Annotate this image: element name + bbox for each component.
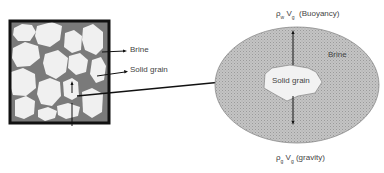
label-brine-right: Brine: [328, 50, 347, 59]
grains: [10, 22, 106, 121]
label-solid-grain-right: Solid grain: [272, 76, 310, 85]
diagram-canvas: [0, 0, 384, 173]
porous-medium-box: [10, 21, 109, 126]
brine-ellipse: [215, 27, 379, 143]
label-gravity: ρg Vg (gravity): [276, 153, 325, 164]
label-solid-grain-left: Solid grain: [130, 65, 168, 74]
label-brine-left: Brine: [130, 45, 149, 54]
label-buoyancy: ρw Vg (Buoyancy): [276, 9, 339, 20]
